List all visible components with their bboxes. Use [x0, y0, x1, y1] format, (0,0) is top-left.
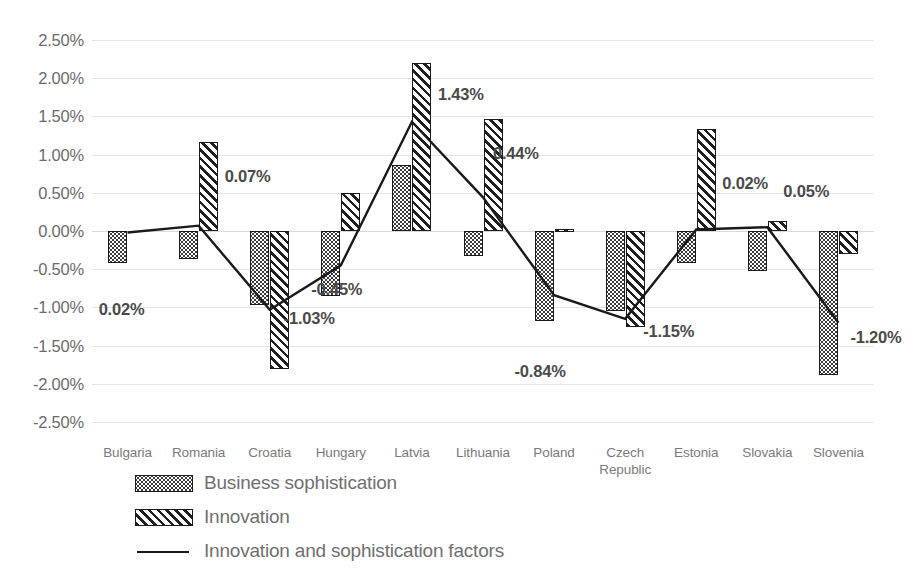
x-axis-tick-label: Hungary [305, 444, 376, 461]
gridline [92, 422, 874, 423]
hatch-swatch [135, 509, 193, 526]
legend-item[interactable]: Innovation and sophistication factors [135, 534, 835, 568]
data-point-label: 0.05% [783, 182, 829, 201]
y-axis-tick-label: -1.50% [6, 336, 84, 355]
data-point-label: 0.02% [99, 300, 145, 319]
chart-legend: Business sophisticationInnovationInnovat… [135, 466, 835, 568]
x-axis-tick-label: Slovakia [732, 444, 803, 461]
data-point-label: -1.03% [284, 309, 335, 328]
data-point-label: -1.15% [643, 322, 694, 341]
data-point-label: -1.20% [850, 328, 901, 347]
y-axis-tick-label: 1.00% [6, 145, 84, 164]
y-axis-tick-label: -2.00% [6, 374, 84, 393]
data-point-label: 0.44% [493, 144, 539, 163]
x-axis-tick-label: Slovenia [803, 444, 874, 461]
y-axis-tick-label: 1.50% [6, 107, 84, 126]
x-axis-tick-label: Lithuania [447, 444, 518, 461]
dotted-swatch [135, 475, 193, 492]
legend-item-label: Innovation [204, 506, 290, 528]
x-axis-tick-label: Latvia [376, 444, 447, 461]
y-axis-tick-label: 2.50% [6, 31, 84, 50]
y-axis-tick-label: -2.50% [6, 413, 84, 432]
data-point-label: 1.43% [438, 85, 484, 104]
data-point-label: 0.02% [722, 174, 768, 193]
y-axis-tick-label: -1.00% [6, 298, 84, 317]
data-point-label: -0.84% [515, 362, 566, 381]
legend-item[interactable]: Innovation [135, 500, 835, 534]
plot-area: 0.02%0.07%-1.03%-0.45%1.43%0.44%-0.84%-1… [92, 40, 874, 422]
data-point-label: -0.45% [311, 280, 362, 299]
data-point-label: 0.07% [225, 167, 271, 186]
y-axis-tick-label: 0.00% [6, 222, 84, 241]
legend-item-label: Innovation and sophistication factors [204, 540, 504, 562]
x-axis-tick-label: Bulgaria [92, 444, 163, 461]
x-axis-tick-label: Romania [163, 444, 234, 461]
y-axis-tick-label: 0.50% [6, 183, 84, 202]
x-axis-tick-label: Estonia [661, 444, 732, 461]
line-innovation-and-sophistication-factors [128, 122, 839, 323]
y-axis-tick-label: 2.00% [6, 69, 84, 88]
y-axis-tick-label: -0.50% [6, 260, 84, 279]
x-axis-tick-label: Poland [519, 444, 590, 461]
legend-item-label: Business sophistication [204, 472, 397, 494]
line-swatch [135, 543, 193, 560]
x-axis-tick-label: Croatia [234, 444, 305, 461]
legend-item[interactable]: Business sophistication [135, 466, 835, 500]
y-axis: 2.50%2.00%1.50%1.00%0.50%0.00%-0.50%-1.0… [0, 40, 84, 422]
chart-container: 2.50%2.00%1.50%1.00%0.50%0.00%-0.50%-1.0… [0, 0, 917, 582]
